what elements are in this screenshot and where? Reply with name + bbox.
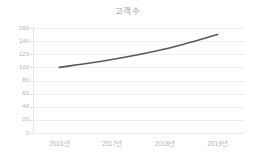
y-axis-tick-mark <box>30 67 33 68</box>
y-axis-tick-mark <box>30 107 33 108</box>
line-series-customer-count <box>59 35 217 68</box>
y-axis-tick-mark <box>30 41 33 42</box>
y-axis-tick-mark <box>30 54 33 55</box>
chart-container: 고객수 020406080100120140160 2016년2017년2018… <box>0 0 255 163</box>
y-axis-tick-mark <box>30 120 33 121</box>
x-axis-tick-label: 2016년 <box>29 139 89 148</box>
x-axis-tick-label: 2017년 <box>82 139 142 148</box>
y-axis-tick-mark <box>30 133 33 134</box>
x-axis-tick-label: 2018년 <box>135 139 195 148</box>
y-axis-tick-mark <box>30 94 33 95</box>
y-axis-tick-mark <box>30 81 33 82</box>
x-axis-tick-label: 2019년 <box>188 139 248 148</box>
y-axis-tick-mark <box>30 28 33 29</box>
